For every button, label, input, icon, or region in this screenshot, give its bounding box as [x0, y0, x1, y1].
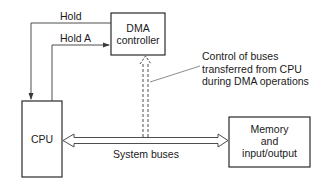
annotation-leader-line [150, 66, 200, 82]
annotation-line2: transferred from CPU [202, 63, 309, 76]
hold-label: Hold [60, 10, 82, 22]
annotation-line1: Control of buses [202, 50, 309, 63]
memory-label-line1: Memory [229, 123, 310, 135]
hold-a-label: Hold A [60, 32, 91, 44]
dma-label-line2: controller [111, 34, 165, 46]
bus-control-transfer-arrow [140, 56, 151, 137]
cpu-label: CPU [22, 133, 62, 145]
memory-label-line2: and [229, 135, 310, 147]
bus-right-arrowhead-icon [218, 134, 228, 147]
annotation-line3: during DMA operations [202, 75, 309, 88]
memory-io-label: Memory and input/output [229, 123, 310, 159]
dma-controller-label: DMA controller [111, 22, 165, 46]
cpu-label-text: CPU [22, 133, 62, 145]
dashed-arrowhead-icon [140, 56, 151, 64]
system-buses-arrow [63, 134, 228, 147]
hold-a-signal-line [52, 43, 110, 102]
memory-label-line3: input/output [229, 147, 310, 159]
dma-block-diagram: DMA controller CPU Memory and input/outp… [0, 0, 326, 189]
hold-arrowhead-icon [29, 93, 34, 100]
bus-control-annotation: Control of buses transferred from CPU du… [202, 50, 309, 88]
hold-a-arrowhead-icon [103, 43, 110, 48]
bus-left-arrowhead-icon [63, 134, 74, 147]
system-buses-label: System buses [113, 148, 179, 160]
dma-label-line1: DMA [111, 22, 165, 34]
